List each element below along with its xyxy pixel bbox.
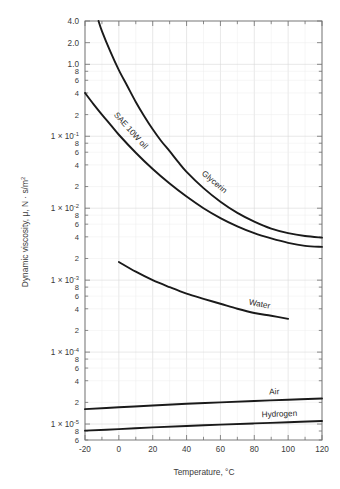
y-tick-label: 4 <box>75 89 79 98</box>
y-tick-label: 4 <box>75 305 79 314</box>
x-tick-label: 100 <box>281 445 295 454</box>
y-tick-label: 6 <box>75 76 79 85</box>
x-tick-label: 80 <box>250 445 260 454</box>
y-tick-label: 8 <box>75 139 79 148</box>
y-tick-label: 2.0 <box>68 39 80 48</box>
x-tick-label: 40 <box>182 445 192 454</box>
y-tick-label: 4 <box>75 161 79 170</box>
x-tick-label: 120 <box>315 445 329 454</box>
y-tick-label: 2 <box>75 326 79 335</box>
y-tick-label: 6 <box>75 364 79 373</box>
curve-label-hydrogen: Hydrogen <box>261 409 297 419</box>
y-tick-label: 2 <box>75 111 79 120</box>
x-axis-title: Temperature, °C <box>173 467 234 477</box>
y-tick-label: 2 <box>75 254 79 263</box>
xtick-label-layer: -20020406080100120 <box>79 445 329 454</box>
ytick-label-layer: 4.02.01.086421 × 10-186421 × 10-286421 ×… <box>51 17 80 445</box>
viscosity-chart-figure: 4.02.01.086421 × 10-186421 × 10-286421 ×… <box>0 0 340 489</box>
y-tick-label: 6 <box>75 148 79 157</box>
y-tick-label: 8 <box>75 211 79 220</box>
x-tick-label: -20 <box>79 445 91 454</box>
curve-label-air: Air <box>269 387 280 396</box>
chart-canvas: 4.02.01.086421 × 10-186421 × 10-286421 ×… <box>0 0 340 489</box>
y-axis-title: Dynamic viscosity, μ, N · s/m2 <box>20 177 30 287</box>
y-tick-label: 8 <box>75 67 79 76</box>
grid-layer <box>85 21 322 440</box>
y-tick-label: 4.0 <box>68 17 80 26</box>
y-tick-label: 8 <box>75 355 79 364</box>
y-tick-label: 4 <box>75 233 79 242</box>
y-tick-label: 2 <box>75 182 79 191</box>
x-tick-label: 0 <box>117 445 122 454</box>
x-tick-label: 60 <box>216 445 226 454</box>
y-tick-label: 8 <box>75 283 79 292</box>
y-tick-label: 4 <box>75 377 79 386</box>
y-tick-label: 6 <box>75 292 79 301</box>
axis-title-layer: Temperature, °C Dynamic viscosity, μ, N … <box>20 177 235 477</box>
y-tick-label: 6 <box>75 220 79 229</box>
y-tick-label: 2 <box>75 398 79 407</box>
x-tick-label: 20 <box>148 445 158 454</box>
y-tick-label: 6 <box>75 436 79 445</box>
y-tick-label: 8 <box>75 427 79 436</box>
curve-label-glycerin: Glycerin <box>200 169 229 196</box>
